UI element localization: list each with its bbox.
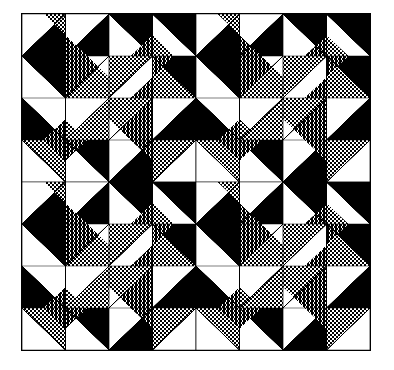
pattern-frame (21, 13, 371, 351)
quilt-pattern-canvas (22, 14, 370, 350)
figure-canvas (0, 0, 394, 370)
